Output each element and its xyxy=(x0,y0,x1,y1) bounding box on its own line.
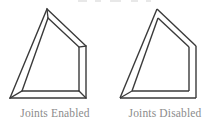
depth-edge-right xyxy=(79,46,86,47)
figure-joints-disabled: Joints Disabled xyxy=(110,0,220,129)
caption-joints-disabled: Joints Disabled xyxy=(110,106,220,120)
caption-joints-enabled: Joints Enabled xyxy=(0,106,110,120)
outer-segment-apex-to-right xyxy=(157,9,196,46)
inner-segment-apex-to-right xyxy=(158,18,189,47)
figure-joints-enabled: Joints Enabled xyxy=(0,0,110,129)
joints-disabled-illustration xyxy=(110,0,220,105)
outer-segment-left-to-apex xyxy=(120,9,157,98)
outer-wedge-path-mitered xyxy=(10,9,86,98)
inner-wedge-path-mitered xyxy=(22,18,79,91)
joints-enabled-illustration xyxy=(0,0,110,105)
inner-segment-left-to-apex xyxy=(132,18,158,91)
figure-comparison-panel: Joints Enabled Joints Disabled xyxy=(0,0,220,129)
depth-edge-bottom-right xyxy=(79,91,86,98)
